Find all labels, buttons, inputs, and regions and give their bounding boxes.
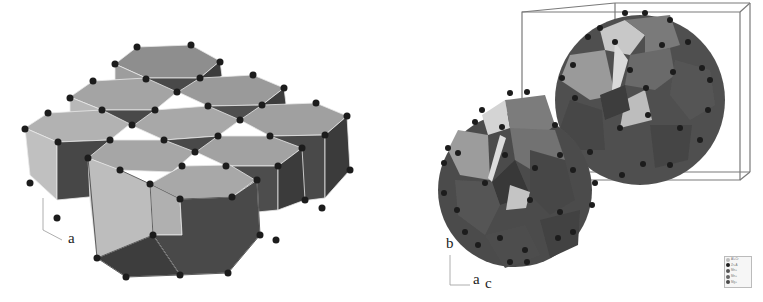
axis-label-b: b <box>446 236 454 251</box>
axis-label-c: c <box>485 276 492 291</box>
legend-entry: Mg+ <box>725 279 751 285</box>
axis-indicator-right <box>450 255 470 285</box>
legend-swatch-icon <box>726 263 730 267</box>
hexagonal-prism-structure <box>0 0 380 302</box>
polyhedral-cluster-structure <box>430 0 763 302</box>
legend-swatch-icon <box>726 275 730 279</box>
polyhedral-cluster-panel: b a c <box>430 0 763 302</box>
axis-label-a: a <box>473 272 480 287</box>
element-legend: Al+Cr Zr+A Mn+ Mn+ Mg+ <box>724 256 752 288</box>
axis-label-a: a <box>68 231 75 246</box>
legend-swatch-icon <box>726 280 730 284</box>
legend-swatch-icon <box>726 269 730 273</box>
legend-swatch-icon <box>726 258 730 262</box>
hexagonal-prism-structure-panel: a <box>0 0 380 302</box>
